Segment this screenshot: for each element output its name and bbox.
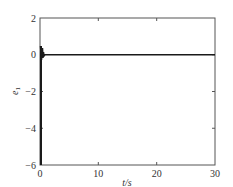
x-tick-label: 0 [38,168,43,179]
y-tick-labels: 2 0 −2 −4 −6 [25,13,36,171]
y-axis-label-sub: 1 [14,87,22,91]
y-ticks [40,55,215,129]
y-tick-label: 0 [31,49,36,60]
x-tick-label: 10 [93,168,103,179]
y-tick-label: 2 [31,13,36,24]
y-tick-label: −2 [25,86,36,97]
x-tick-label: 20 [152,168,162,179]
x-tick-label: 30 [210,168,220,179]
y-tick-label: −6 [25,160,36,171]
series-e1 [41,46,216,165]
y-axis-label: e1 [9,87,22,95]
y-tick-label: −4 [25,123,36,134]
plot-area-frame [40,18,215,165]
chart: 2 0 −2 −4 −6 0 10 20 30 t/s e1 [0,0,233,187]
svg-text:e1: e1 [9,87,22,95]
x-axis-label: t/s [122,177,132,187]
x-ticks [98,18,156,165]
